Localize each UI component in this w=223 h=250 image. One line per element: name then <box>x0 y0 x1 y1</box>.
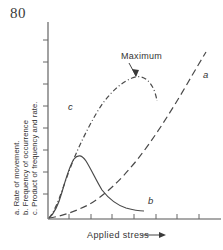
maximum-label: Maximum <box>121 51 162 61</box>
curve-a-path <box>49 52 206 218</box>
x-axis-arrow-head <box>159 232 166 238</box>
curve-label-a: a <box>203 69 208 80</box>
y-axis-legend: a. Rate of movement. b. Frequency of occ… <box>12 102 39 215</box>
y-axis-legend-line-c: c. Product of frequency and rate. <box>30 102 39 215</box>
y-axis-legend-line-b: b. Frequency of occurrence <box>21 120 30 215</box>
y-axis-ticks <box>43 40 48 194</box>
figure-chart: Maximum a b c a. Rate of movement. b. Fr… <box>0 0 223 250</box>
curve-c-path <box>49 77 157 218</box>
x-axis-title-group: Applied stress <box>87 230 166 240</box>
maximum-annotation: Maximum <box>121 51 162 77</box>
curve-label-b: b <box>148 195 153 206</box>
curve-label-c: c <box>68 101 73 112</box>
y-axis-legend-line-a: a. Rate of movement. <box>12 140 21 215</box>
x-axis-title: Applied stress <box>87 230 149 240</box>
maximum-arrowhead <box>132 69 139 77</box>
figure-page: 80 <box>0 0 223 250</box>
x-axis-ticks <box>69 214 199 219</box>
